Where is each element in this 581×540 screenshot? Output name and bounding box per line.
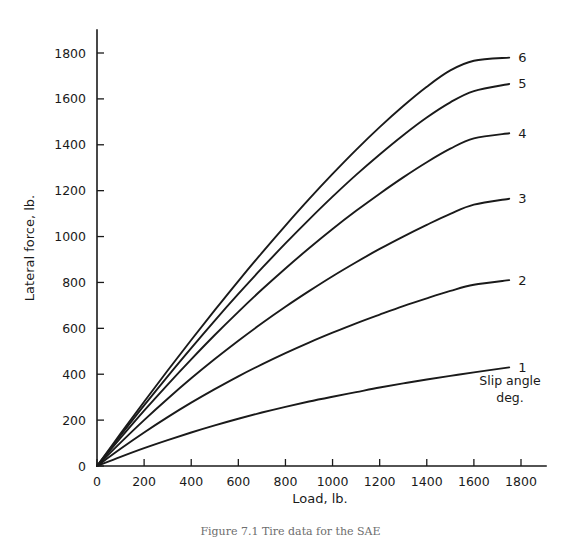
x-tick-label-1600: 1600 (458, 474, 490, 489)
x-tick-label-800: 800 (274, 474, 298, 489)
y-tick-label-1600: 1600 (54, 91, 86, 106)
lateral-force-vs-load-chart: 020040060080010001200140016001800 020040… (0, 0, 581, 540)
curve-labels: 123456 (518, 50, 526, 375)
x-tick-label-1800: 1800 (505, 474, 537, 489)
y-tick-label-200: 200 (62, 413, 86, 428)
x-axis: 020040060080010001200140016001800 (93, 459, 546, 489)
legend-note: Slip angle deg. (479, 373, 541, 405)
x-tick-label-200: 200 (132, 474, 156, 489)
legend-title-line2: deg. (496, 390, 524, 405)
y-tick-label-1400: 1400 (54, 137, 86, 152)
curve-slip-angle-6 (97, 58, 509, 466)
curve-label-2: 2 (518, 273, 526, 288)
y-axis: 020040060080010001200140016001800 (54, 30, 104, 474)
x-tick-label-600: 600 (226, 474, 250, 489)
y-tick-label-0: 0 (78, 459, 86, 474)
curve-label-3: 3 (518, 191, 526, 206)
x-tick-label-1400: 1400 (411, 474, 443, 489)
y-axis-ticks (97, 53, 104, 466)
x-tick-label-1000: 1000 (317, 474, 349, 489)
curve-label-6: 6 (518, 50, 526, 65)
curve-slip-angle-3 (97, 199, 509, 466)
figure-caption: Figure 7.1 Tire data for the SAE (0, 523, 581, 540)
y-tick-label-600: 600 (62, 321, 86, 336)
legend-title-line1: Slip angle (479, 373, 541, 388)
x-tick-label-0: 0 (93, 474, 101, 489)
data-curves (97, 58, 509, 466)
y-tick-label-800: 800 (62, 275, 86, 290)
x-tick-label-400: 400 (179, 474, 203, 489)
curve-label-5: 5 (518, 76, 526, 91)
curve-slip-angle-2 (97, 280, 509, 466)
figure-container: 020040060080010001200140016001800 020040… (0, 0, 581, 540)
y-axis-tick-labels: 020040060080010001200140016001800 (54, 46, 86, 474)
x-axis-title: Load, lb. (292, 491, 347, 506)
y-tick-label-1800: 1800 (54, 46, 86, 61)
curve-slip-angle-5 (97, 84, 509, 466)
y-axis-title: Lateral force, lb. (22, 195, 37, 301)
y-tick-label-400: 400 (62, 367, 86, 382)
x-tick-label-1200: 1200 (364, 474, 396, 489)
curve-slip-angle-4 (97, 133, 509, 466)
x-axis-tick-labels: 020040060080010001200140016001800 (93, 474, 537, 489)
curve-label-4: 4 (518, 126, 526, 141)
y-tick-label-1200: 1200 (54, 183, 86, 198)
x-axis-ticks (97, 459, 521, 466)
y-tick-label-1000: 1000 (54, 229, 86, 244)
